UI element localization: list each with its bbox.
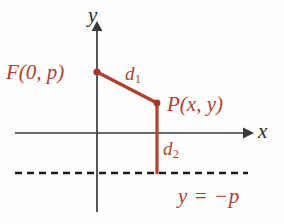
curve-point-dot-marker	[154, 100, 161, 107]
d1-label-subscript: 1	[135, 73, 141, 86]
parabola-focus-directrix-figure: F(0, p) P(x, y) d1 d2 y = −p y x	[0, 0, 284, 224]
arrow-right-icon	[243, 128, 254, 139]
d2-label: d2	[163, 139, 179, 160]
d2-label-base: d	[163, 138, 173, 159]
figure-canvas	[0, 0, 284, 224]
x-axis-label: x	[258, 121, 267, 142]
focus-point-dot-marker	[93, 68, 100, 75]
directrix-equation-label: y = −p	[178, 186, 240, 207]
y-axis-label: y	[88, 5, 97, 26]
point-p-label: P(x, y)	[167, 94, 223, 115]
y-axis	[92, 21, 103, 212]
d2-label-subscript: 2	[173, 148, 179, 161]
x-axis	[15, 128, 254, 139]
d1-label: d1	[125, 64, 141, 85]
d1-label-base: d	[125, 63, 135, 84]
focus-label: F(0, p)	[6, 62, 64, 83]
